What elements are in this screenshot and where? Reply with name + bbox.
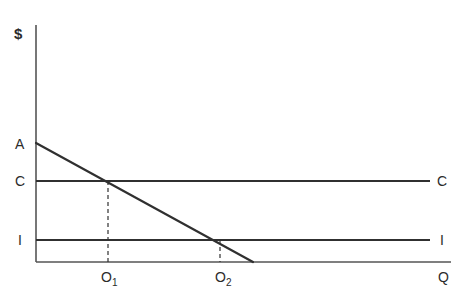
chart-canvas: [0, 0, 461, 299]
label-c-right: C: [437, 174, 447, 188]
label-i-right: I: [440, 233, 444, 247]
demand-curve: [36, 143, 253, 262]
label-c-left: C: [15, 174, 25, 188]
x-tick-label-o2: O2: [215, 270, 231, 288]
x-tick-o2-base: O: [215, 269, 226, 285]
y-axis-title: $: [14, 26, 22, 41]
label-a-intercept: A: [15, 137, 24, 151]
x-tick-o1-subscript: 1: [112, 277, 118, 288]
economics-demand-chart: $ Q A C I C I O1 O2: [0, 0, 461, 299]
x-tick-o1-base: O: [101, 269, 112, 285]
x-tick-o2-subscript: 2: [226, 277, 232, 288]
x-axis-title: Q: [438, 270, 449, 284]
label-i-left: I: [18, 233, 22, 247]
x-tick-label-o1: O1: [101, 270, 117, 288]
